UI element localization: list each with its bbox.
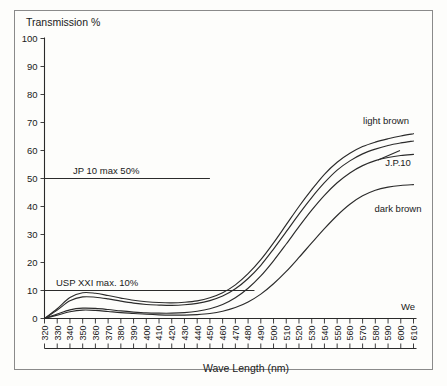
x-tick-label: 570 <box>358 325 368 340</box>
x-tick-label: 600 <box>396 325 406 340</box>
x-tick-label: 420 <box>167 325 177 340</box>
x-tick-label: 560 <box>345 325 355 340</box>
x-tick-label: 410 <box>154 325 164 340</box>
y-tick-label: 30 <box>27 229 38 240</box>
y-tick-label: 60 <box>27 145 38 156</box>
x-tick-label: 320 <box>40 325 50 340</box>
x-tick-label: 500 <box>269 325 279 340</box>
x-tick-label: 580 <box>371 325 381 340</box>
figure-container: 0102030405060708090100320330340350360370… <box>0 0 447 386</box>
y-tick-label: 70 <box>27 117 38 128</box>
x-tick-label: 370 <box>104 325 114 340</box>
x-tick-label: 400 <box>142 325 152 340</box>
y-tick-label: 100 <box>22 33 38 44</box>
jp10-curve-label: J.P.10 <box>385 157 411 168</box>
x-tick-label: 350 <box>78 325 88 340</box>
x-tick-label: 460 <box>218 325 228 340</box>
y-tick-label: 50 <box>27 173 38 184</box>
transmission-chart: 0102030405060708090100320330340350360370… <box>0 0 447 386</box>
x-tick-label: 520 <box>294 325 304 340</box>
x-tick-label: 430 <box>180 325 190 340</box>
x-tick-label: 390 <box>129 325 139 340</box>
x-tick-label: 480 <box>243 325 253 340</box>
x-tick-label: 540 <box>320 325 330 340</box>
y-tick-label: 90 <box>27 61 38 72</box>
x-tick-label: 530 <box>307 325 317 340</box>
x-tick-label: 450 <box>205 325 215 340</box>
y-tick-label: 40 <box>27 201 38 212</box>
x-tick-label: 380 <box>116 325 126 340</box>
x-tick-label: 590 <box>383 325 393 340</box>
dark-brown-label: dark brown <box>375 203 422 214</box>
x-tick-label: 440 <box>193 325 203 340</box>
we-label: We <box>401 301 415 312</box>
curve-dark-brown <box>45 185 414 319</box>
y-tick-label: 80 <box>27 89 38 100</box>
y-tick-label: 0 <box>32 313 37 324</box>
x-tick-label: 330 <box>53 325 63 340</box>
x-tick-label: 470 <box>231 325 241 340</box>
y-axis-title: Transmission % <box>26 16 100 28</box>
x-tick-label: 610 <box>409 325 419 340</box>
x-tick-label: 490 <box>256 325 266 340</box>
x-tick-label: 510 <box>282 325 292 340</box>
x-tick-label: 360 <box>91 325 101 340</box>
x-axis-title: Wave Length (nm) <box>203 362 289 374</box>
y-tick-label: 10 <box>27 285 38 296</box>
light-brown-label: light brown <box>363 115 409 126</box>
usp-limit-label: USP XXI max. 10% <box>56 277 139 288</box>
y-tick-label: 20 <box>27 257 38 268</box>
x-tick-label: 340 <box>65 325 75 340</box>
x-tick-label: 550 <box>333 325 343 340</box>
jp10-limit-label: JP 10 max 50% <box>73 165 140 176</box>
